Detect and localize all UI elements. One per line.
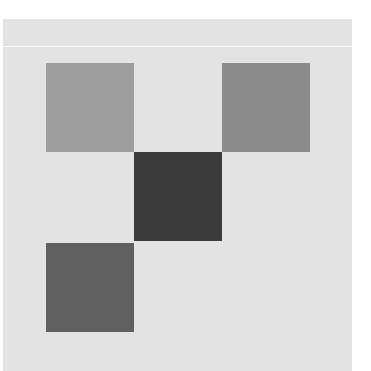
header-divider (3, 46, 352, 47)
tile-r2-c0[interactable] (46, 243, 134, 332)
tile-r1-c1[interactable] (134, 152, 222, 241)
tile-r0-c0[interactable] (46, 63, 134, 152)
tile-r0-c2[interactable] (222, 63, 310, 152)
